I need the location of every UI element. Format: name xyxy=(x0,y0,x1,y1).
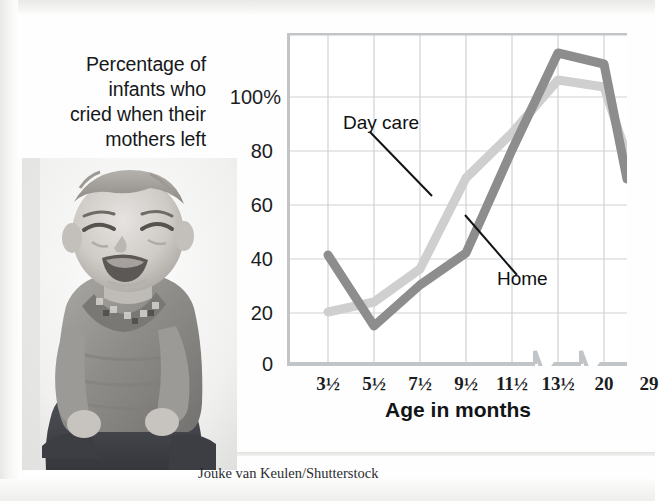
line-chart: 100% 80 60 40 20 0 3½ 5½ 7½ 9½ 11½ 13½ 2… xyxy=(287,33,627,366)
y-axis-caption-line-2: infants who xyxy=(24,77,206,102)
page-edge-tint-top xyxy=(0,0,655,14)
y-axis-caption: Percentage of infants who cried when the… xyxy=(24,52,206,152)
page-divider-rule xyxy=(186,452,655,456)
series-label-day-care: Day care xyxy=(343,112,419,134)
page-edge-tint-left xyxy=(0,0,18,501)
y-axis-caption-line-3: cried when their xyxy=(24,102,206,127)
y-tick-20: 20 xyxy=(211,302,273,325)
page-edge-tint-bottom xyxy=(0,479,655,501)
photo-credit: Jouke van Keulen/Shutterstock xyxy=(198,465,378,482)
y-tick-40: 40 xyxy=(211,248,273,271)
x-axis-title: Age in months xyxy=(288,398,628,422)
x-tick-7: 29 xyxy=(607,373,663,395)
series-label-home: Home xyxy=(497,268,548,290)
y-tick-80: 80 xyxy=(211,140,273,163)
crying-infant-photo xyxy=(22,158,237,470)
y-axis-caption-line-4: mothers left xyxy=(24,127,206,152)
y-axis-caption-line-1: Percentage of xyxy=(24,52,206,77)
y-tick-60: 60 xyxy=(211,194,273,217)
y-tick-0: 0 xyxy=(211,353,273,376)
y-tick-100: 100% xyxy=(211,86,281,109)
